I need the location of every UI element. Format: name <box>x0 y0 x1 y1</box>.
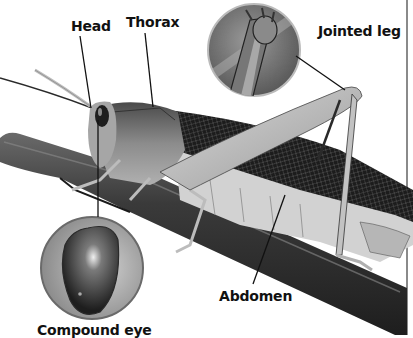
leader-thorax <box>145 33 153 107</box>
leader-jointed-leg <box>296 56 345 90</box>
compound-eye-inset <box>41 217 143 319</box>
label-abdomen: Abdomen <box>219 288 292 304</box>
jointed-leg-inset <box>205 4 300 100</box>
label-compound-eye: Compound eye <box>37 322 152 338</box>
compound-eye <box>95 105 109 127</box>
label-head: Head <box>71 18 111 34</box>
leader-head <box>80 36 91 108</box>
antennae <box>0 70 92 108</box>
label-thorax: Thorax <box>126 14 179 30</box>
label-jointed-leg: Jointed leg <box>318 23 401 39</box>
